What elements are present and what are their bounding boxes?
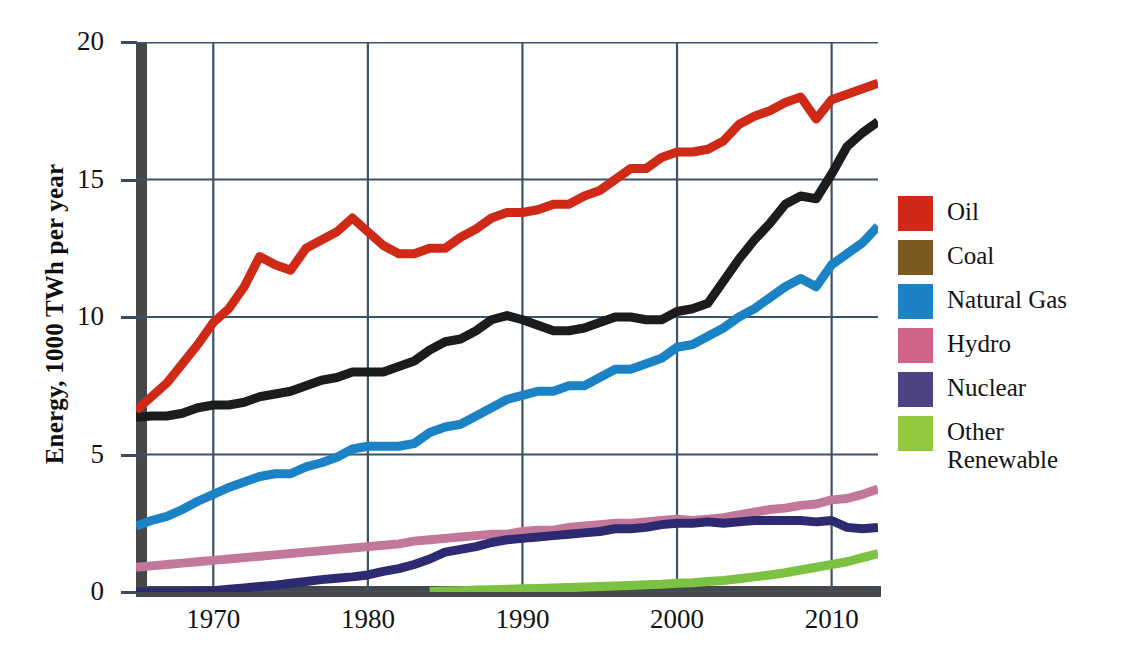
x-tick-label: 1980	[308, 604, 428, 635]
legend-swatch-icon	[898, 372, 933, 407]
legend-swatch-icon	[898, 328, 933, 363]
legend-item[interactable]: Natural Gas	[898, 284, 1128, 319]
series-line-other-renewable	[430, 554, 878, 592]
y-tick-label: 15	[58, 166, 104, 193]
legend-item-label: Oil	[947, 196, 979, 226]
legend-swatch-icon	[898, 416, 933, 451]
series-line-hydro	[136, 489, 878, 567]
series-line-coal	[136, 122, 878, 418]
x-tick-label: 1990	[462, 604, 582, 635]
series-lines	[136, 83, 878, 592]
legend-swatch-icon	[898, 284, 933, 319]
legend-item[interactable]: Coal	[898, 240, 1128, 275]
chart-svg	[136, 42, 878, 592]
y-tick-mark	[121, 179, 137, 182]
legend-item[interactable]: Oil	[898, 196, 1128, 231]
legend-swatch-icon	[898, 240, 933, 275]
legend-item-label: Natural Gas	[947, 284, 1067, 314]
x-tick-label: 1970	[153, 604, 273, 635]
energy-consumption-line-chart: Energy, 1000 TWh per year 20151050 19701…	[0, 0, 1139, 664]
y-tick-mark	[121, 316, 137, 319]
legend-item[interactable]: Hydro	[898, 328, 1128, 363]
y-tick-label: 10	[58, 303, 104, 330]
legend-swatch-icon	[898, 196, 933, 231]
x-tick-label: 2010	[772, 604, 892, 635]
legend-item[interactable]: Nuclear	[898, 372, 1128, 407]
legend-item-label: Other Renewable	[947, 416, 1058, 473]
y-tick-mark	[121, 41, 137, 44]
chart-legend: OilCoalNatural GasHydroNuclearOther Rene…	[898, 196, 1128, 482]
y-tick-label: 20	[58, 28, 104, 55]
x-tick-label: 2000	[617, 604, 737, 635]
y-tick-label: 0	[58, 578, 104, 605]
legend-item[interactable]: Other Renewable	[898, 416, 1128, 473]
y-tick-mark	[121, 591, 137, 594]
y-tick-label: 5	[58, 441, 104, 468]
series-line-oil	[136, 83, 878, 410]
legend-item-label: Hydro	[947, 328, 1011, 358]
legend-item-label: Nuclear	[947, 372, 1026, 402]
plot-area	[136, 42, 878, 592]
y-tick-mark	[121, 454, 137, 457]
legend-item-label: Coal	[947, 240, 994, 270]
